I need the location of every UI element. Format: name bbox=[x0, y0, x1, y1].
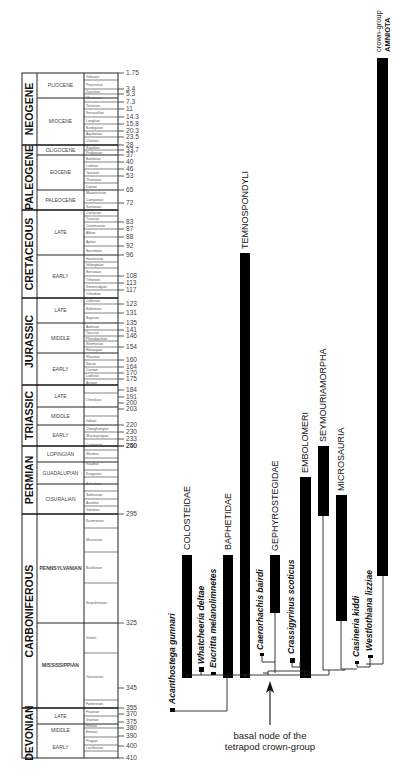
stage-label: Santonian bbox=[86, 205, 101, 209]
epoch-label: LATE bbox=[54, 713, 67, 719]
taxon-label: Westlothiana lizziae bbox=[364, 570, 374, 651]
figure: 1.753.45.37.31114.315.820.323.52833.7374… bbox=[0, 0, 410, 783]
temnospondyli-range-bar bbox=[240, 253, 250, 678]
age-label: 72 bbox=[126, 199, 134, 206]
stage-label: Serpukhovian bbox=[86, 601, 107, 605]
age-label: 87 bbox=[126, 225, 134, 232]
crassigyrinus-marker bbox=[290, 658, 295, 663]
epoch-label: LOPINGIAN bbox=[47, 451, 75, 457]
stage-label: Norian bbox=[86, 362, 96, 366]
period-label: JURASSIC bbox=[23, 315, 35, 369]
age-label: 131 bbox=[126, 309, 137, 316]
age-label: 123 bbox=[126, 300, 137, 307]
stage-label: Famennian bbox=[86, 702, 103, 706]
epoch-label: EARLY bbox=[52, 273, 69, 279]
stage-label: Serravallian bbox=[86, 111, 104, 115]
stage-label: Bartonian bbox=[86, 157, 101, 161]
period-label: PALEOGENE bbox=[23, 145, 35, 210]
age-label: 5.3 bbox=[126, 90, 135, 97]
epoch-label: EOCENE bbox=[50, 169, 72, 175]
age-label: 250 bbox=[126, 442, 137, 449]
age-label: 15.8 bbox=[126, 120, 139, 127]
stage-label: Toarcian bbox=[86, 331, 99, 335]
caerorhachis-marker bbox=[260, 653, 264, 656]
epoch-label: EARLY bbox=[52, 432, 69, 438]
taxon-label: Caerorhachis bairdi bbox=[255, 569, 265, 650]
age-label: 40 bbox=[126, 158, 134, 165]
westlothiana-marker bbox=[368, 655, 373, 658]
stage-label: Turonian bbox=[86, 217, 99, 221]
stage-label: Ladinian bbox=[86, 374, 99, 378]
stage-label: Pliensbachian bbox=[86, 337, 107, 341]
epoch-label: MIOCENE bbox=[49, 118, 73, 124]
stage-label: Asselian bbox=[86, 501, 99, 505]
age-label: 380 bbox=[126, 724, 137, 731]
epoch-label: MIDDLE bbox=[51, 335, 71, 341]
age-label: 53 bbox=[126, 172, 134, 179]
stage-label: Wuchiapingian bbox=[86, 434, 108, 438]
annotation-line-2: tetrapod crown-group bbox=[225, 741, 315, 752]
age-label: 184 bbox=[126, 386, 137, 393]
stage-label: Pragian bbox=[86, 739, 98, 743]
stage-label: Sakmarian bbox=[86, 493, 102, 497]
stage-label: Callovian bbox=[86, 299, 100, 303]
age-label: 117 bbox=[126, 286, 137, 293]
epoch-labels: PLIOCENEMIOCENEOLIGOCENEEOCENEPALEOCENEL… bbox=[39, 82, 81, 750]
taxon-label: EMBOLOMERI bbox=[300, 412, 310, 473]
stage-label: Lutetian bbox=[86, 164, 98, 168]
stage-label: Bathonian bbox=[86, 307, 101, 311]
epoch-label: OLIGOCENE bbox=[46, 147, 76, 153]
stage-label: Bashkirian bbox=[86, 566, 102, 570]
stage-label: Rhaetian bbox=[86, 355, 100, 359]
period-label: PERMIAN bbox=[23, 456, 35, 504]
age-label: 88 bbox=[126, 233, 134, 240]
stage-label: Hauterivian bbox=[86, 257, 103, 261]
taxon-label: COLOSTEIDAE bbox=[182, 486, 192, 550]
age-ticks bbox=[118, 73, 124, 758]
stage-label: Eifelian bbox=[86, 724, 97, 728]
stage-label: Gzhelian bbox=[86, 508, 99, 512]
age-label: 46 bbox=[126, 165, 134, 172]
taxon-label: Whatcheeria deltae bbox=[196, 585, 206, 664]
stage-label: Aquitanian bbox=[86, 132, 102, 136]
stage-label: Maastrichtian bbox=[86, 191, 106, 195]
age-label: 92 bbox=[126, 242, 134, 249]
age-label: 1.75 bbox=[126, 69, 139, 76]
annotation-line-1: basal node of the bbox=[234, 730, 307, 741]
colosteidae-range-bar bbox=[182, 555, 192, 678]
age-label: 65 bbox=[126, 186, 134, 193]
stage-label: Olenekian bbox=[86, 398, 101, 402]
casineria-marker bbox=[355, 661, 359, 664]
period-label: DEVONIAN bbox=[23, 705, 35, 760]
stage-label: Kasimovian bbox=[86, 519, 104, 523]
epoch-label: PLIOCENE bbox=[48, 82, 74, 88]
period-labels: NEOGENEPALEOGENECRETACEOUSJURASSICTRIASS… bbox=[23, 83, 35, 761]
stage-label: Gelasian bbox=[86, 75, 99, 79]
age-label: 146 bbox=[126, 332, 137, 339]
stage-label: Tortonian bbox=[86, 104, 100, 108]
stage-label: Carnian bbox=[86, 368, 98, 372]
stage-label: Aalenian bbox=[86, 325, 99, 329]
taxon-label: BAPHETIDAE bbox=[223, 493, 233, 550]
stage-label: Induan bbox=[86, 419, 96, 423]
stage-label: Coniacian bbox=[86, 211, 101, 215]
age-label: 175 bbox=[126, 375, 137, 382]
taxon-label: Acanthostega gunnari bbox=[167, 613, 177, 705]
stage-label: Berriasian bbox=[86, 270, 101, 274]
age-label: 410 bbox=[126, 754, 137, 761]
stage-label: Kimmeridgian bbox=[86, 285, 107, 289]
basal-node-arrow bbox=[266, 681, 274, 725]
stage-label: Capitanian bbox=[86, 443, 102, 447]
epoch-label: PENNSYLVANIAN bbox=[39, 565, 81, 571]
stage-label: Tournaisian bbox=[86, 675, 103, 679]
stage-label: Ypresian bbox=[86, 171, 99, 175]
age-label: 400 bbox=[126, 742, 137, 749]
age-label: 230 bbox=[126, 428, 137, 435]
stage-label: Campanian bbox=[86, 198, 103, 202]
taxon-label: TEMNOSPONDYLI bbox=[240, 171, 250, 249]
amniota-name-label: AMNIOTA bbox=[383, 17, 392, 52]
stage-label: Lochkovian bbox=[86, 746, 103, 750]
epoch-label: MIDDLE bbox=[51, 413, 71, 419]
age-label: 96 bbox=[126, 251, 134, 258]
stage-label: Artinskian bbox=[86, 482, 101, 486]
